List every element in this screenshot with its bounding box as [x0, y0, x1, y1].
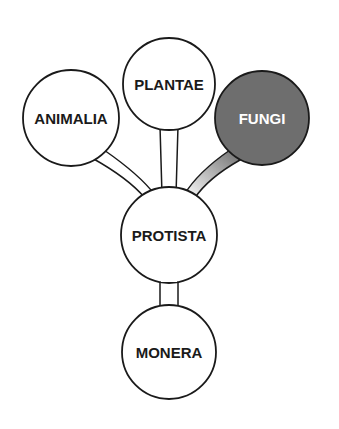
- node-fungi[interactable]: FUNGI: [215, 71, 309, 165]
- node-protista[interactable]: PROTISTA: [121, 187, 217, 283]
- connector-protista-plantae: [160, 126, 178, 196]
- node-label-fungi: FUNGI: [239, 110, 286, 127]
- node-label-plantae: PLANTAE: [134, 76, 204, 93]
- connector-protista-fungi: [184, 150, 240, 199]
- node-label-monera: MONERA: [136, 344, 203, 361]
- node-animalia[interactable]: ANIMALIA: [23, 70, 119, 166]
- node-monera[interactable]: MONERA: [122, 305, 216, 399]
- node-label-protista: PROTISTA: [132, 227, 207, 244]
- node-label-animalia: ANIMALIA: [34, 110, 107, 127]
- connector-protista-animalia: [92, 150, 155, 198]
- kingdom-diagram: ANIMALIA PLANTAE FUNGI PROTISTA MONERA: [0, 0, 339, 429]
- node-plantae[interactable]: PLANTAE: [123, 38, 215, 130]
